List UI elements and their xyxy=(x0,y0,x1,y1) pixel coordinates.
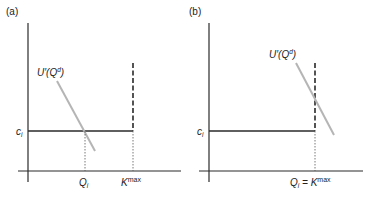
panel-a: (a) ci U′(Qd) Qi Kmax xyxy=(6,6,181,189)
panel-b-qi-kmax-label: Qi = Kmax xyxy=(290,176,331,189)
panel-a-label: (a) xyxy=(6,6,18,17)
capacity-diagram: (a) ci U′(Qd) Qi Kmax (b) ci xyxy=(0,0,374,198)
panel-a-demand-label: U′(Qd) xyxy=(37,66,64,78)
panel-b-demand-label: U′(Qd) xyxy=(269,48,296,60)
panel-b-label: (b) xyxy=(189,6,201,17)
panel-a-demand-curve xyxy=(57,81,95,151)
panel-b: (b) ci U′(Qd) Qi = Kmax xyxy=(189,6,363,189)
panel-a-kmax-label: Kmax xyxy=(121,176,141,188)
panel-a-ci-label: ci xyxy=(16,126,23,138)
panel-a-qi-label: Qi xyxy=(79,177,89,189)
panel-b-ci-label: ci xyxy=(197,126,204,138)
